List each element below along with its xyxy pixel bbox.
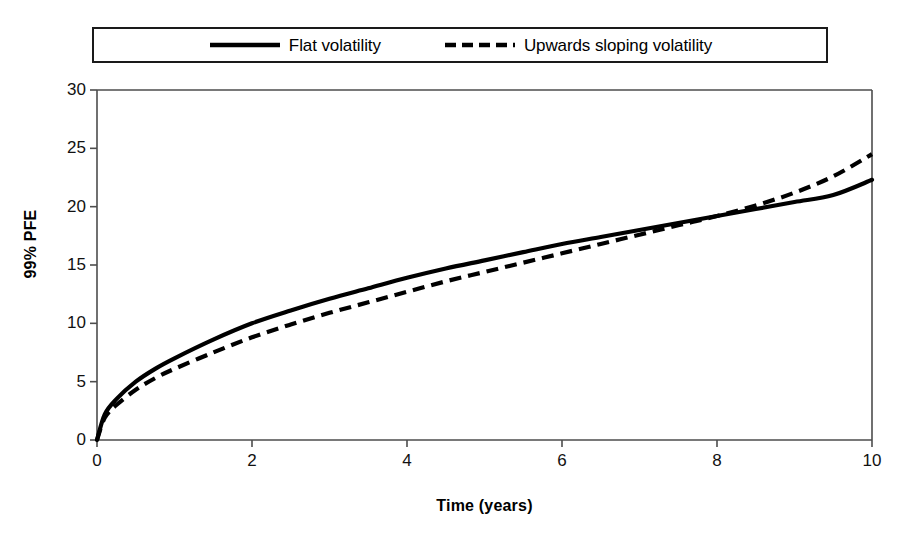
series-line-flat-volatility: [97, 180, 872, 440]
x-tick-label: 6: [540, 452, 584, 469]
y-axis-ticks: [90, 90, 97, 440]
y-axis-title: 99% PFE: [22, 174, 40, 314]
x-tick-label: 0: [75, 452, 119, 469]
x-tick-label: 8: [695, 452, 739, 469]
y-tick-label: 10: [46, 314, 86, 331]
y-tick-label: 0: [46, 431, 86, 448]
chart-figure: Flat volatility Upwards sloping volatili…: [0, 0, 905, 542]
y-tick-label: 20: [46, 198, 86, 215]
y-tick-label: 5: [46, 373, 86, 390]
y-tick-label: 25: [46, 139, 86, 156]
x-axis-title: Time (years): [97, 497, 872, 515]
series-line-upwards-sloping-volatility: [97, 154, 872, 440]
x-axis-ticks: [97, 440, 872, 447]
x-tick-label: 4: [385, 452, 429, 469]
y-tick-label: 30: [46, 81, 86, 98]
x-axis-tick-labels: 0246810: [0, 452, 905, 482]
plot-frame: [97, 90, 872, 440]
x-tick-label: 2: [230, 452, 274, 469]
y-tick-label: 15: [46, 256, 86, 273]
x-tick-label: 10: [850, 452, 894, 469]
